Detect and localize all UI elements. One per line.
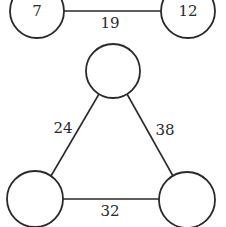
edge-label-38: 38: [155, 121, 174, 139]
edge-label-19: 19: [100, 14, 119, 32]
node-label-12: 12: [178, 2, 197, 20]
node-top: [86, 44, 140, 98]
edge-label-24: 24: [53, 119, 72, 137]
node-label-7: 7: [32, 2, 42, 20]
edge-label-32: 32: [100, 202, 119, 220]
node-right: [159, 172, 215, 227]
graph-diagram: 7 12 19 24 38 32: [0, 0, 226, 227]
pair-graph: 7 12 19: [10, 0, 215, 38]
triangle-graph: 24 38 32: [7, 44, 215, 227]
node-left: [7, 171, 63, 227]
